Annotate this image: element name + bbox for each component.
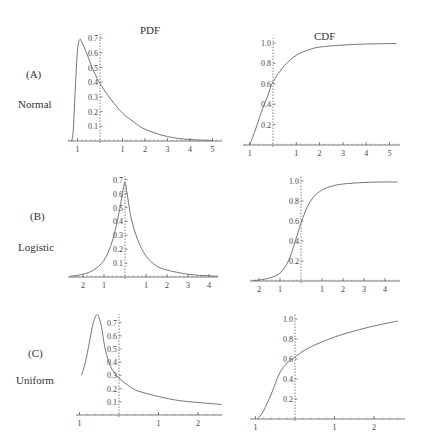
x-tick-label: 1 — [102, 281, 106, 290]
y-tick-label: 0.7 — [113, 176, 123, 185]
curve-line — [253, 182, 398, 281]
x-tick-label: 2 — [143, 145, 147, 154]
x-tick-label: 2 — [318, 149, 322, 158]
y-tick-label: 0.1 — [88, 122, 98, 131]
y-tick-label: 0.2 — [261, 121, 271, 130]
curve-line — [257, 321, 397, 419]
x-tick-label: 1 — [157, 419, 161, 428]
y-tick-label: 1.0 — [283, 315, 293, 324]
y-tick-label: 0.7 — [88, 34, 98, 43]
curve-line — [81, 315, 221, 405]
x-tick-label: 3 — [362, 285, 366, 294]
y-tick-label: 0.1 — [107, 398, 117, 407]
x-tick-label: 1 — [333, 423, 337, 432]
y-tick-label: 1.0 — [261, 39, 271, 48]
y-tick-label: 0.3 — [107, 371, 117, 380]
x-tick-label: 3 — [341, 149, 345, 158]
y-tick-label: 0.5 — [107, 345, 117, 354]
x-tick-label: 1 — [294, 149, 298, 158]
x-tick-label: 2 — [81, 281, 85, 290]
chart-panel-1: 0.10.20.30.40.50.60.7112345 — [68, 34, 222, 154]
curve-line — [70, 182, 217, 276]
x-tick-label: 3 — [186, 281, 190, 290]
y-tick-label: 0.8 — [261, 59, 271, 68]
y-tick-label: 0.2 — [289, 257, 299, 266]
x-tick-label: 2 — [372, 423, 376, 432]
x-tick-label: 1 — [78, 419, 82, 428]
y-tick-label: 0.3 — [88, 93, 98, 102]
y-tick-label: 0.2 — [107, 385, 117, 394]
chart-panel-6: 0.20.40.60.81.0112 — [250, 314, 405, 432]
y-tick-label: 0.6 — [289, 217, 299, 226]
x-tick-label: 4 — [188, 145, 192, 154]
chart-panel-4: 0.20.40.60.81.0211234 — [250, 176, 400, 294]
y-tick-label: 0.2 — [113, 245, 123, 254]
x-tick-label: 1 — [76, 145, 80, 154]
y-tick-label: 1.0 — [289, 177, 299, 186]
chart-panel-3: 0.10.20.30.40.50.60.7211234 — [68, 176, 218, 290]
chart-panel-5: 0.10.20.30.40.50.60.7112 — [76, 314, 222, 428]
y-tick-label: 0.2 — [283, 395, 293, 404]
x-tick-label: 5 — [388, 149, 392, 158]
y-tick-label: 0.6 — [88, 49, 98, 58]
y-tick-label: 0.5 — [113, 204, 123, 213]
x-tick-label: 2 — [165, 281, 169, 290]
x-tick-label: 1 — [254, 423, 258, 432]
x-tick-label: 2 — [257, 285, 261, 294]
chart-panel-2: 0.20.40.60.81.0112345 — [243, 38, 400, 158]
x-tick-label: 2 — [196, 419, 200, 428]
y-tick-label: 0.8 — [289, 197, 299, 206]
x-tick-label: 4 — [364, 149, 368, 158]
y-tick-label: 0.6 — [261, 80, 271, 89]
y-tick-label: 0.7 — [107, 319, 117, 328]
x-tick-label: 2 — [341, 285, 345, 294]
x-tick-label: 1 — [320, 285, 324, 294]
x-tick-label: 5 — [211, 145, 215, 154]
y-tick-label: 0.1 — [113, 259, 123, 268]
y-tick-label: 0.8 — [283, 335, 293, 344]
y-tick-label: 0.2 — [88, 108, 98, 117]
y-tick-label: 0.4 — [261, 100, 271, 109]
x-tick-label: 1 — [248, 149, 252, 158]
curve-line — [250, 44, 397, 145]
x-tick-label: 1 — [121, 145, 125, 154]
x-tick-label: 3 — [166, 145, 170, 154]
y-tick-label: 0.4 — [88, 78, 98, 87]
plots-canvas: 0.10.20.30.40.50.60.71123450.20.40.60.81… — [0, 0, 425, 446]
y-tick-label: 0.5 — [88, 64, 98, 73]
x-tick-label: 1 — [278, 285, 282, 294]
y-tick-label: 0.6 — [107, 332, 117, 341]
x-tick-label: 1 — [144, 281, 148, 290]
x-tick-label: 4 — [207, 281, 211, 290]
x-tick-label: 4 — [383, 285, 387, 294]
y-tick-label: 0.4 — [283, 375, 293, 384]
